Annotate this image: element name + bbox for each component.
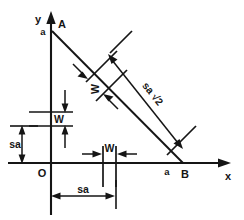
w-horizontal-label: W (105, 142, 115, 154)
point-b-label: B (181, 168, 189, 180)
y-axis-arrowhead (46, 11, 55, 24)
sa-horizontal-dimension: sa (51, 180, 116, 209)
w-horizontal-left-arrowhead (117, 151, 127, 158)
w-horizontal-dimension: W (82, 142, 137, 187)
geometry-figure: W sa W (0, 0, 244, 220)
w-vertical-label: W (54, 113, 64, 125)
sa-horizontal-right-arrowhead (106, 193, 116, 200)
sa-diagonal-dimension: sa √2 (108, 31, 196, 155)
x-axis-label: x (225, 170, 232, 182)
figure-canvas: W sa W (0, 0, 244, 220)
sa-diagonal-label: sa √2 (140, 80, 166, 108)
w-diagonal-arrowhead-b (103, 94, 114, 102)
w-horizontal-right-arrowhead (93, 151, 103, 158)
sa-horizontal-label: sa (77, 183, 89, 195)
y-intercept-a-label: a (40, 26, 46, 37)
sa-diagonal-upper-tick (110, 31, 132, 53)
sa-vertical-label: sa (9, 138, 21, 150)
y-axis-label: y (35, 13, 42, 25)
x-axis-arrowhead (218, 158, 231, 167)
origin-label: O (38, 167, 47, 179)
x-intercept-a-label: a (164, 166, 170, 177)
w-diagonal-upper-tick (86, 51, 117, 82)
sa-horizontal-left-arrowhead (51, 193, 61, 200)
w-diagonal-arrowhead-a (78, 72, 89, 80)
sa-vertical-dimension: sa (9, 125, 38, 164)
w-diagonal-label: W (89, 84, 101, 94)
point-a-label: A (58, 18, 66, 30)
sa-diagonal-lower-tick (167, 126, 196, 155)
